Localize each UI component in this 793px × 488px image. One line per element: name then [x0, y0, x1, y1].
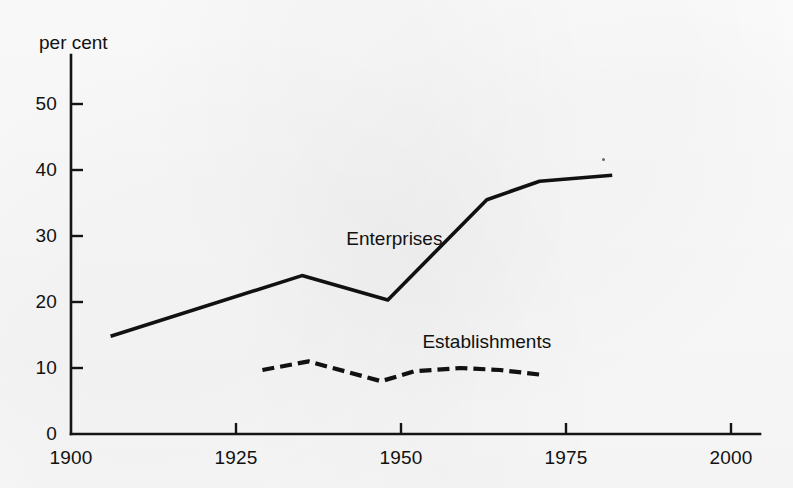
y-axis-tick-label: 20	[13, 292, 57, 311]
x-axis-ticks	[236, 423, 731, 434]
x-axis-tick-label: 1950	[361, 448, 441, 467]
x-axis-tick-label: 1975	[526, 448, 606, 467]
series-label-enterprises: Enterprises	[346, 229, 442, 248]
y-axis-unit-label: per cent	[39, 33, 108, 52]
y-axis-tick-label: 10	[13, 358, 57, 377]
y-axis-tick-label: 40	[13, 160, 57, 179]
y-axis-tick-label: 0	[13, 424, 57, 443]
x-axis-tick-label: 2000	[691, 448, 771, 467]
series-line-enterprises	[111, 175, 613, 336]
chart-figure: per cent 01020304050 1900192519501975200…	[0, 0, 793, 488]
y-axis-tick-label: 30	[13, 226, 57, 245]
x-axis-tick-label: 1925	[196, 448, 276, 467]
series-line-establishments	[262, 361, 539, 381]
y-axis-tick-label: 50	[13, 94, 57, 113]
ink-speck	[602, 158, 605, 161]
y-axis-ticks	[71, 104, 83, 368]
x-axis-tick-label: 1900	[31, 448, 111, 467]
series-label-establishments: Establishments	[422, 332, 551, 351]
